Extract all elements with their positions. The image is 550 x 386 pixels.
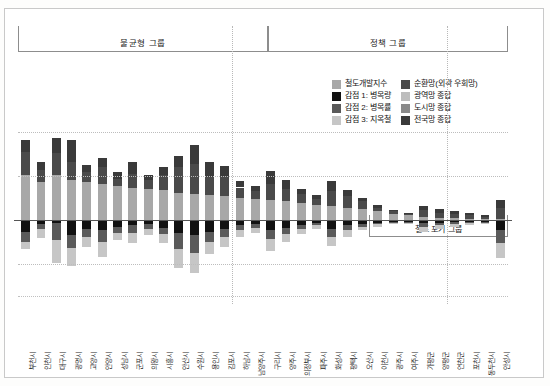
bar-segment — [159, 234, 168, 243]
bar-segment — [174, 193, 183, 221]
bar-column[interactable] — [174, 132, 183, 296]
x-axis-tick-label: 동두천시 — [488, 352, 496, 376]
bar-segment — [67, 248, 76, 266]
bar-segment — [450, 211, 459, 214]
bar-segment — [419, 206, 428, 210]
bar-column[interactable] — [435, 132, 444, 296]
bar-segment — [205, 220, 214, 231]
bar-column[interactable] — [312, 132, 321, 296]
bar-column[interactable] — [236, 132, 245, 296]
bar-segment — [82, 237, 91, 247]
bar-segment — [251, 191, 260, 199]
legend-item[interactable]: 철도개발지수 — [332, 79, 391, 89]
x-axis-tick-label: 고양시 — [90, 352, 98, 370]
bar-segment — [312, 195, 321, 199]
bar-series-container — [18, 132, 508, 296]
bar-column[interactable] — [52, 132, 61, 296]
bar-segment — [220, 176, 229, 196]
legend-item[interactable]: 감점 2: 병목률 — [332, 103, 391, 113]
bar-column[interactable] — [297, 132, 306, 296]
legend-item[interactable]: 감점 1: 병목량 — [332, 91, 391, 101]
legend-item[interactable]: 감점 3: 지옥철 — [332, 115, 391, 125]
x-axis-tick-label: 가평군 — [427, 352, 435, 370]
bar-column[interactable] — [251, 132, 260, 296]
bar-segment — [389, 223, 398, 224]
bar-segment — [82, 165, 91, 173]
bar-column[interactable] — [450, 132, 459, 296]
bar-column[interactable] — [37, 132, 46, 296]
bar-segment — [496, 243, 505, 258]
bar-column[interactable] — [465, 132, 474, 296]
bar-column[interactable] — [159, 132, 168, 296]
legend-item[interactable]: 순환망(외곽 우회망) — [401, 79, 478, 89]
bar-column[interactable] — [496, 132, 505, 296]
x-axis-tick-label: 수원시 — [197, 352, 205, 370]
x-axis-tick-label: 하남시 — [243, 352, 251, 370]
bar-column[interactable] — [113, 132, 122, 296]
bar-segment — [404, 213, 413, 214]
bar-segment — [98, 158, 107, 167]
x-axis-tick-label: 김포시 — [228, 352, 236, 370]
x-axis-tick-label: 부천시 — [29, 352, 37, 370]
x-axis-tick-label: 파주시 — [320, 352, 328, 370]
bar-segment — [327, 220, 336, 229]
bar-column[interactable] — [220, 132, 229, 296]
bar-segment — [159, 190, 168, 220]
bar-column[interactable] — [144, 132, 153, 296]
bar-column[interactable] — [205, 132, 214, 296]
bar-segment — [52, 138, 61, 153]
legend-swatch-icon — [401, 116, 410, 125]
legend-item[interactable]: 광역망 종합 — [401, 91, 478, 101]
bar-column[interactable] — [266, 132, 275, 296]
bar-column[interactable] — [343, 132, 352, 296]
bar-column[interactable] — [67, 132, 76, 296]
bar-segment — [481, 215, 490, 216]
bar-column[interactable] — [358, 132, 367, 296]
bar-segment — [266, 239, 275, 250]
bar-segment — [496, 230, 505, 243]
x-axis-tick-label: 구리시 — [274, 352, 282, 370]
bar-column[interactable] — [389, 132, 398, 296]
gridline — [18, 176, 508, 177]
bar-segment — [144, 180, 153, 189]
bar-segment — [266, 220, 275, 230]
bar-segment — [174, 156, 183, 167]
bar-segment — [190, 220, 199, 235]
bar-column[interactable] — [481, 132, 490, 296]
bar-segment — [144, 189, 153, 221]
legend-item[interactable]: 전국망 종합 — [401, 115, 478, 125]
bar-segment — [358, 198, 367, 202]
bar-segment — [373, 211, 382, 220]
bar-column[interactable] — [190, 132, 199, 296]
bar-segment — [205, 242, 214, 255]
bar-segment — [373, 224, 382, 227]
bar-segment — [389, 210, 398, 211]
bar-column[interactable] — [21, 132, 30, 296]
bar-segment — [297, 203, 306, 221]
bar-column[interactable] — [98, 132, 107, 296]
bar-segment — [190, 235, 199, 253]
bar-column[interactable] — [82, 132, 91, 296]
bar-column[interactable] — [327, 132, 336, 296]
bar-segment — [52, 240, 61, 263]
bar-segment — [236, 181, 245, 187]
bar-column[interactable] — [282, 132, 291, 296]
bar-column[interactable] — [419, 132, 428, 296]
bar-segment — [220, 220, 229, 229]
bar-column[interactable] — [373, 132, 382, 296]
bar-segment — [113, 186, 122, 220]
bar-column[interactable] — [128, 132, 137, 296]
bar-segment — [21, 140, 30, 153]
bar-segment — [297, 194, 306, 203]
bar-segment — [67, 180, 76, 220]
bar-segment — [67, 140, 76, 163]
bar-column[interactable] — [404, 132, 413, 296]
bar-segment — [266, 230, 275, 239]
bar-segment — [373, 205, 382, 208]
gridline — [18, 264, 508, 265]
legend-item[interactable]: 도시망 종합 — [401, 103, 478, 113]
group-header-left: 불균형 그룹 — [18, 26, 268, 52]
x-axis-tick-label: 용인시 — [212, 352, 220, 370]
bar-segment — [435, 225, 444, 229]
bar-segment — [282, 201, 291, 220]
